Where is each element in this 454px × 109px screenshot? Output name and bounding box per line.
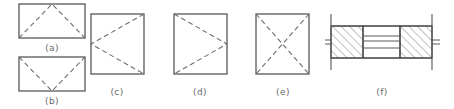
figure-f-central-channel-outline (363, 26, 400, 58)
figure-d-fold-lines (174, 14, 227, 74)
figure-c-fold-lines (91, 14, 144, 74)
figure-f-right-block-hatch (400, 26, 432, 58)
figure-d-caption: (d) (193, 87, 207, 97)
figure-a: (a) (19, 4, 85, 53)
figure-c: (c) (91, 14, 144, 97)
figure-a-outline (19, 4, 85, 38)
figure-e-caption: (e) (276, 87, 290, 97)
figure-c-outline (91, 14, 144, 74)
figure-d: (d) (174, 14, 227, 97)
figure-b-outline (19, 57, 85, 91)
line-drawing-canvas: (a) (b) (c) (d) (e) (0, 0, 454, 109)
figure-a-fold-lines (19, 4, 85, 38)
figure-f-left-block-hatch (331, 26, 363, 58)
figure-e: (e) (256, 14, 309, 97)
figure-diagram-root: (a) (b) (c) (d) (e) (0, 0, 454, 109)
figure-a-caption: (a) (45, 43, 59, 53)
figure-c-caption: (c) (110, 87, 123, 97)
figure-d-outline (174, 14, 227, 74)
figure-b-caption: (b) (45, 96, 59, 106)
figure-b-fold-lines (19, 57, 85, 91)
figure-f: (f) (325, 14, 440, 97)
figure-b: (b) (19, 57, 85, 106)
figure-f-caption: (f) (376, 87, 387, 97)
